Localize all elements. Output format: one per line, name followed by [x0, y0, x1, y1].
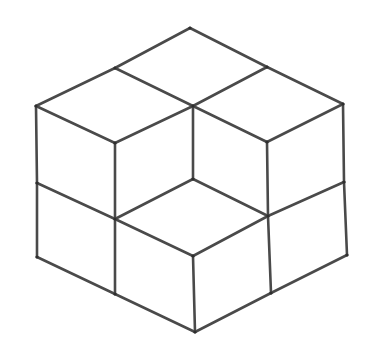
cube-edge [37, 183, 115, 219]
cube-edge [193, 67, 267, 106]
vertex-left-front-mid [113, 217, 116, 220]
vertex-right-front-mid [266, 214, 269, 217]
cube-edge [268, 182, 344, 216]
isometric-cubes-drawing [0, 0, 373, 348]
vertex-left-bottom-mid [113, 292, 116, 295]
cube-edge [193, 106, 267, 142]
cube-edge [267, 142, 268, 216]
cube-edge [115, 294, 195, 332]
cube-edge [268, 216, 271, 293]
vertex-left-bottom [35, 255, 38, 258]
cube-edge [115, 219, 193, 256]
vertex-center-top [191, 104, 194, 107]
cube-edge [193, 256, 195, 332]
cube-edge [37, 257, 115, 294]
vertex-right-bottom-mid [269, 291, 272, 294]
vertex-center-inner [191, 177, 194, 180]
cube-edge [36, 68, 115, 106]
vertex-right-top [341, 102, 344, 105]
cube-edge [267, 67, 343, 104]
cube-stack-figure [0, 0, 373, 348]
cube-edge [271, 255, 347, 293]
cube-edge [193, 216, 268, 256]
cube-edge [115, 179, 193, 219]
cube-edge [115, 28, 190, 68]
cube-edge [36, 106, 115, 143]
cube-edge [193, 179, 268, 216]
vertex-top-right-mid [265, 65, 268, 68]
vertex-top [188, 26, 191, 29]
cube-edge [36, 106, 37, 183]
cube-edge [190, 28, 267, 67]
cube-edge [344, 182, 347, 255]
vertex-front-center-top [191, 254, 194, 257]
cube-edge [115, 106, 193, 143]
vertex-bottom [193, 330, 196, 333]
cube-edge [343, 104, 344, 182]
cube-edge [195, 293, 271, 332]
vertex-right-cube-front-top [265, 140, 268, 143]
cube-edge [115, 68, 193, 106]
vertex-right-bottom [345, 253, 348, 256]
vertex-left-top [34, 104, 37, 107]
vertex-right-mid [342, 180, 345, 183]
vertex-top-left-mid [113, 66, 116, 69]
vertex-left-mid [35, 181, 38, 184]
cube-edge [267, 104, 343, 142]
vertex-left-cube-front-top [113, 141, 116, 144]
edge-group [36, 28, 347, 332]
